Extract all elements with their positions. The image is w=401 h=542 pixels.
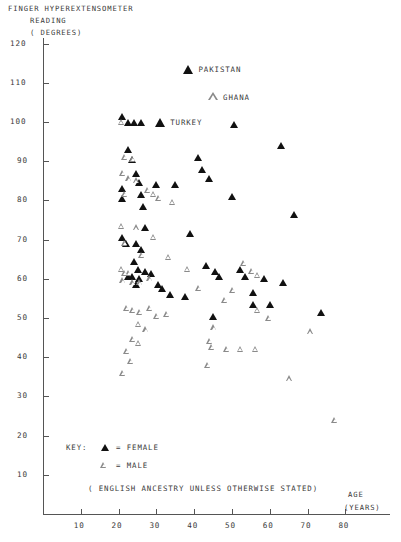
chart-title-line1: FINGER HYPEREXTENSOMETER [8,4,133,13]
data-point-male [134,177,140,183]
x-tick-label: 40 [187,521,198,530]
data-point-female [279,279,287,286]
y-tick-label: 100 [10,117,26,126]
data-point-male [209,344,215,350]
data-point-male [126,270,132,276]
x-tick [308,509,309,515]
data-point-female [228,193,236,200]
data-point-female [230,121,238,128]
x-tick-label: 70 [301,521,312,530]
data-point-male [230,287,236,293]
data-point-male [120,277,126,283]
y-tick-label: 50 [17,313,28,322]
data-point-male [332,417,338,423]
annotation-label: GHANA [223,93,250,102]
data-point-male [126,175,132,181]
data-point-male [135,321,141,327]
y-tick [43,357,49,358]
data-point-male [139,252,145,258]
data-point-female [171,181,179,188]
data-point-female [183,65,193,74]
data-point-female [166,291,174,298]
annotation-label: TURKEY [170,118,202,127]
data-point-female [137,119,145,126]
data-point-male [241,260,247,266]
chart-title-line3: ( DEGREES) [30,28,82,37]
data-point-male [185,266,191,272]
x-tick [81,509,82,515]
data-point-male [169,199,175,205]
x-tick [270,509,271,515]
data-point-male [128,358,134,364]
x-tick-label: 20 [112,521,123,530]
data-point-female [277,142,285,149]
data-point-male [135,340,141,346]
data-point-female [139,203,147,210]
legend-title: KEY: [66,443,87,452]
data-point-female [266,301,274,308]
data-point-male [208,92,218,98]
data-point-male [147,275,153,281]
legend-label-female: = FEMALE [116,443,159,452]
y-tick [43,436,49,437]
data-point-female [317,309,325,316]
data-point-male [130,156,136,162]
data-point-male [143,326,149,332]
annotation-label: PAKISTAN [199,65,242,74]
data-point-female [236,266,244,273]
data-point-male [164,311,170,317]
y-tick [43,44,49,45]
data-point-male [130,279,136,285]
data-point-female [198,166,206,173]
data-point-male [266,315,272,321]
y-tick-label: 10 [17,470,28,479]
data-point-male [124,348,130,354]
x-tick [119,509,120,515]
y-tick-label: 60 [17,274,28,283]
data-point-male [122,240,128,246]
data-point-male [205,362,211,368]
x-axis-label-line1: AGE [348,490,364,499]
y-tick [43,83,49,84]
data-point-male [222,297,228,303]
y-tick [43,200,49,201]
y-tick [43,240,49,241]
data-point-male [224,346,230,352]
x-tick-label: 10 [74,521,85,530]
data-point-female [215,273,223,280]
data-point-female [181,293,189,300]
data-point-male [118,119,124,125]
x-tick [232,509,233,515]
y-tick-label: 110 [10,78,26,87]
legend-marker-female-icon [101,444,109,451]
legend-footnote: ( ENGLISH ANCESTRY UNLESS OTHERWISE STAT… [88,484,318,493]
x-tick-label: 50 [225,521,236,530]
y-tick-label: 80 [17,195,28,204]
data-point-female [209,313,217,320]
data-point-male [122,154,128,160]
x-tick-label: 60 [263,521,274,530]
y-tick-label: 120 [10,39,26,48]
data-point-male [196,285,202,291]
x-tick [194,509,195,515]
y-tick-label: 70 [17,235,28,244]
x-tick [156,509,157,515]
y-tick-label: 90 [17,156,28,165]
data-point-male [255,307,261,313]
data-point-female [130,258,138,265]
data-point-female [152,181,160,188]
data-point-male [237,346,243,352]
y-tick-label: 20 [17,431,28,440]
data-point-male [147,305,153,311]
data-point-male [166,254,172,260]
y-tick-label: 30 [17,391,28,400]
data-point-female [205,175,213,182]
y-tick [43,475,49,476]
x-axis-line [43,514,390,515]
data-point-female [260,275,268,282]
chart-title-line2: READING [30,16,67,25]
x-tick-label: 80 [338,521,349,530]
data-point-male [130,307,136,313]
data-point-female [241,273,249,280]
data-point-male [137,279,143,285]
